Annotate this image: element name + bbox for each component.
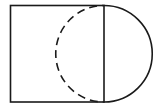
- dashed-semicircle: [56, 6, 104, 103]
- square: [11, 6, 105, 103]
- solid-semicircle: [104, 6, 152, 103]
- geometry-diagram: [0, 0, 163, 106]
